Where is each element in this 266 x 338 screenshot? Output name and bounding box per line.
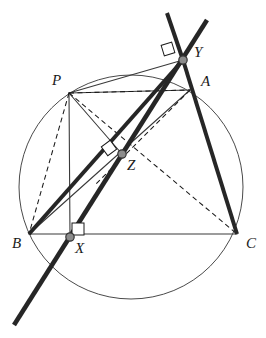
vertex-dot-Y xyxy=(179,56,187,64)
vertex-dot-X xyxy=(66,233,74,241)
vertex-dot-Z xyxy=(118,150,126,158)
point-label-B: B xyxy=(12,236,21,251)
point-label-Y: Y xyxy=(194,45,202,60)
segment-dash-PC xyxy=(69,93,237,234)
right-angle-at-Z xyxy=(101,140,116,155)
right-angle-at-X-square xyxy=(72,223,84,235)
right-angle-at-X xyxy=(72,223,84,235)
right-angle-at-Z-square xyxy=(101,140,116,155)
segment-side-AB-upper xyxy=(29,90,190,234)
segment-dash-PA xyxy=(69,90,190,93)
segment-perp-PX xyxy=(69,93,70,237)
point-label-A: A xyxy=(201,74,210,89)
right-angle-at-Y xyxy=(161,42,175,56)
point-label-X: X xyxy=(75,241,84,256)
point-label-C: C xyxy=(246,236,256,251)
point-label-P: P xyxy=(52,73,61,88)
point-label-Z: Z xyxy=(127,158,135,173)
right-angle-at-Y-square xyxy=(161,42,175,56)
geometry-figure: PABCXYZ xyxy=(0,0,266,338)
